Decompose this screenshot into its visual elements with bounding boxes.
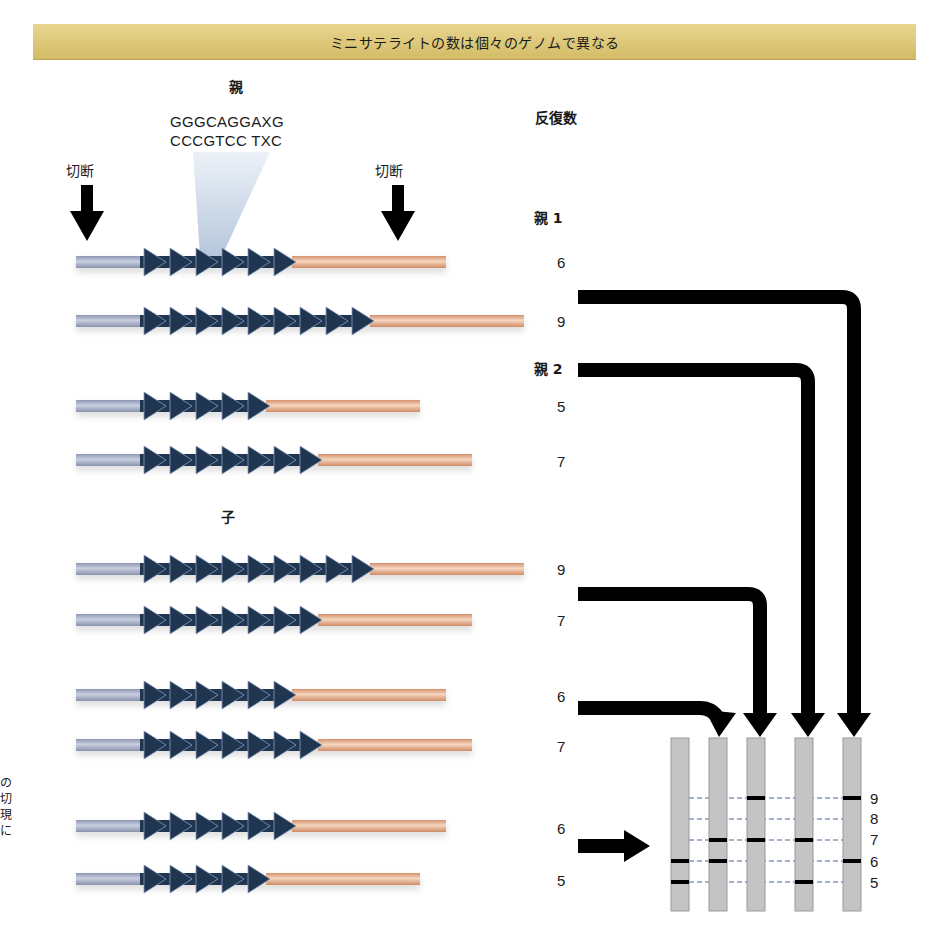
gel-band <box>747 838 765 842</box>
cut-arrow-left-icon <box>70 185 104 241</box>
parent2-connector <box>578 370 808 715</box>
gel-lane <box>671 738 689 911</box>
child1-connector <box>578 594 760 715</box>
gel-lane <box>843 738 861 911</box>
cut-arrow-right-icon <box>381 185 415 241</box>
gel-band <box>843 859 861 863</box>
dna-strand <box>76 555 524 583</box>
gel-band <box>843 796 861 800</box>
gel-band <box>747 796 765 800</box>
sequence-zoom-cone <box>193 152 270 256</box>
gel-lane <box>795 738 813 911</box>
dna-strand <box>76 681 446 709</box>
dna-strand <box>76 731 472 759</box>
minisatellite-diagram <box>0 0 935 952</box>
gel-band <box>671 880 689 884</box>
gel-band <box>709 838 727 842</box>
dna-strand <box>76 812 446 840</box>
dna-strand <box>76 392 420 420</box>
gel-band <box>671 859 689 863</box>
child2-connector <box>578 708 718 718</box>
gel-band <box>709 859 727 863</box>
dna-strand <box>76 865 420 893</box>
dna-strand <box>76 248 446 276</box>
dna-strand <box>76 307 524 335</box>
dna-strand <box>76 606 472 634</box>
gel-band <box>795 880 813 884</box>
gel-lane <box>747 738 765 911</box>
gel-lane <box>709 738 727 911</box>
dna-strand <box>76 446 472 474</box>
gel-band <box>795 838 813 842</box>
